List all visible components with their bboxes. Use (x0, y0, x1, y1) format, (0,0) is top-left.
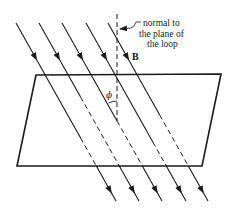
angle-phi-label: ϕ (106, 90, 112, 100)
angle-arc (109, 101, 118, 103)
field-line-hidden-segment (81, 97, 120, 166)
field-line-solid-segment (39, 23, 81, 97)
field-line (62, 23, 162, 201)
field-line-hidden-segment (81, 138, 97, 166)
field-line-exit-segment (166, 166, 186, 201)
field-line-exit-segment (119, 166, 139, 201)
field-line-hidden-segment (160, 115, 189, 166)
field-line-hidden-segment (153, 142, 166, 166)
loop-plane (17, 74, 221, 166)
normal-label-line2: the plane of (139, 29, 185, 39)
magnetic-flux-diagram: ϕ normal to the plane of the loop B (0, 0, 235, 209)
field-line-hidden-segment (117, 121, 142, 166)
field-line (108, 23, 208, 201)
normal-label-line1: normal to (143, 18, 180, 28)
field-line-solid-segment (62, 23, 117, 121)
field-line (39, 23, 139, 201)
field-line-exit-segment (96, 166, 116, 201)
field-line-exit-segment (188, 166, 208, 201)
normal-label-line3: the loop (147, 39, 178, 49)
field-lines (16, 23, 208, 201)
field-line-exit-segment (142, 166, 162, 201)
field-label-B: B (132, 51, 139, 62)
normal-pointer (120, 22, 141, 29)
